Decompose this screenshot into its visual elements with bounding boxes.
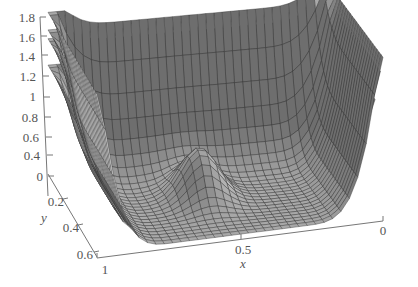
z-tick-label: 0 bbox=[37, 169, 44, 184]
z-tick-label: 0.8 bbox=[22, 110, 38, 125]
y-axis-title: y bbox=[39, 210, 47, 225]
z-axis: 1.8 1.6 1.4 1.2 1 0.8 0.6 0.4 0 bbox=[19, 10, 54, 196]
y-tick-label: 0.4 bbox=[63, 220, 80, 235]
surface-plot: 1.8 1.6 1.4 1.2 1 0.8 0.6 0.4 0 0.2 0.4 … bbox=[0, 0, 418, 287]
z-tick-label: 1.6 bbox=[19, 30, 36, 45]
x-tick-label: 0 bbox=[380, 223, 387, 238]
z-tick-label: 0.6 bbox=[23, 130, 40, 145]
x-axis-title: x bbox=[239, 256, 246, 271]
z-tick-label: 1.2 bbox=[20, 69, 36, 84]
y-tick-label: 0.2 bbox=[48, 194, 64, 209]
surface-mesh bbox=[48, 0, 383, 244]
x-tick-label: 0.5 bbox=[235, 242, 251, 257]
z-tick-label: 1 bbox=[30, 89, 37, 104]
x-tick-label: 1 bbox=[102, 262, 109, 277]
z-tick-label: 1.4 bbox=[19, 49, 36, 64]
y-tick-label: 0.6 bbox=[77, 247, 94, 262]
z-tick-label: 1.8 bbox=[19, 10, 35, 25]
surface-layer-1 bbox=[48, 0, 383, 244]
z-tick-label: 0.4 bbox=[24, 148, 41, 163]
